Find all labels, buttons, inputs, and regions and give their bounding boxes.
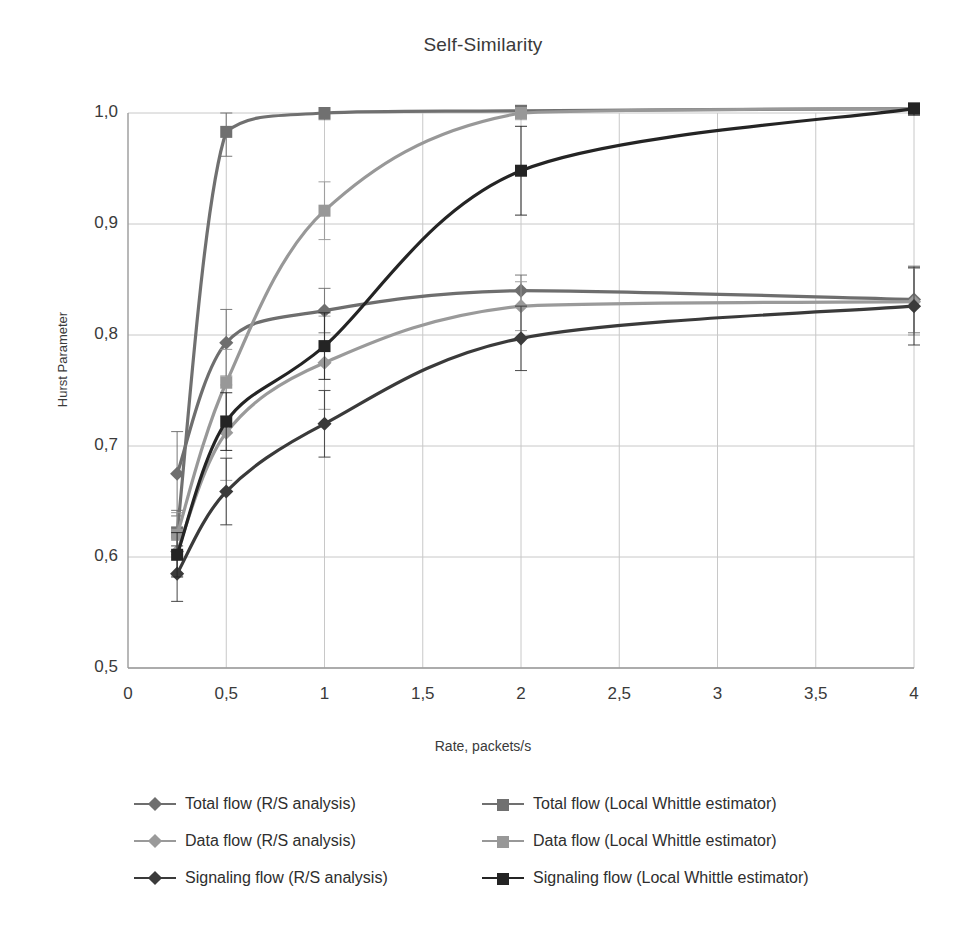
y-tick-label: 0,9 <box>72 213 118 233</box>
chart-title: Self-Similarity <box>0 34 966 56</box>
legend-marker-diamond-icon <box>134 870 176 886</box>
legend-marker-square-icon <box>482 870 524 886</box>
data-point-square <box>171 549 183 561</box>
series-line <box>177 306 914 574</box>
legend-marker-square-icon <box>482 833 524 849</box>
legend-item[interactable]: Total flow (Local Whittle estimator) <box>482 795 924 813</box>
data-point-square <box>515 165 527 177</box>
chart-root: Self-Similarity Hurst Parameter Rate, pa… <box>0 0 966 931</box>
legend-item-label: Data flow (R/S analysis) <box>185 832 356 850</box>
legend-item-label: Data flow (Local Whittle estimator) <box>533 832 777 850</box>
series-line <box>177 109 914 533</box>
y-axis-title: Hurst Parameter <box>55 280 70 440</box>
legend-marker-diamond-icon <box>134 796 176 812</box>
legend-item[interactable]: Signaling flow (R/S analysis) <box>134 869 464 887</box>
data-point-square <box>319 340 331 352</box>
legend-item-label: Signaling flow (Local Whittle estimator) <box>533 869 809 887</box>
y-tick-label: 0,7 <box>72 435 118 455</box>
y-tick-label: 1,0 <box>72 102 118 122</box>
series-3 <box>171 103 920 555</box>
x-axis-title: Rate, packets/s <box>0 738 966 754</box>
data-point-square <box>319 205 331 217</box>
legend-item-label: Total flow (Local Whittle estimator) <box>533 795 777 813</box>
plot-svg <box>128 113 914 668</box>
y-tick-label: 0,8 <box>72 324 118 344</box>
x-tick-label: 4 <box>889 684 939 704</box>
legend-marker-square-icon <box>482 796 524 812</box>
x-tick-label: 3,5 <box>791 684 841 704</box>
data-point-diamond <box>317 417 331 431</box>
x-tick-label: 1,5 <box>398 684 448 704</box>
series-5 <box>171 103 920 577</box>
series-4 <box>171 103 920 557</box>
data-point-diamond <box>514 331 528 345</box>
y-tick-label: 0,6 <box>72 546 118 566</box>
data-point-square <box>220 377 232 389</box>
legend-item[interactable]: Data flow (R/S analysis) <box>134 832 464 850</box>
data-point-square <box>515 107 527 119</box>
legend-item-label: Total flow (R/S analysis) <box>185 795 356 813</box>
x-tick-label: 1 <box>300 684 350 704</box>
series-line <box>177 109 914 535</box>
data-point-square <box>220 416 232 428</box>
legend-item[interactable]: Data flow (Local Whittle estimator) <box>482 832 924 850</box>
legend-marker-diamond-icon <box>134 833 176 849</box>
legend-item-label: Signaling flow (R/S analysis) <box>185 869 388 887</box>
y-tick-label: 0,5 <box>72 657 118 677</box>
legend-item[interactable]: Signaling flow (Local Whittle estimator) <box>482 869 924 887</box>
data-point-square <box>220 126 232 138</box>
x-tick-label: 2,5 <box>594 684 644 704</box>
data-point-square <box>908 103 920 115</box>
chart-legend: Total flow (R/S analysis)Total flow (Loc… <box>134 795 924 887</box>
plot-area <box>128 113 914 668</box>
series-line <box>177 109 914 555</box>
x-tick-label: 2 <box>496 684 546 704</box>
x-tick-label: 3 <box>693 684 743 704</box>
series-1 <box>170 268 921 575</box>
x-tick-label: 0,5 <box>201 684 251 704</box>
legend-item[interactable]: Total flow (R/S analysis) <box>134 795 464 813</box>
data-point-square <box>319 107 331 119</box>
series-line <box>177 302 914 552</box>
x-tick-label: 0 <box>103 684 153 704</box>
